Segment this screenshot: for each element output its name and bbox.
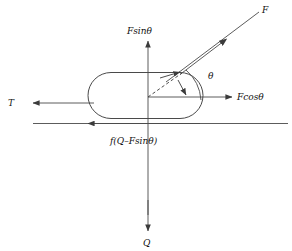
diagram-canvas: F Fsinθ Fcosθ T f(Q–Fsinθ) Q θ: [0, 0, 292, 251]
force-f-arrow: [180, 41, 224, 75]
label-friction: f(Q–Fsinθ): [109, 136, 158, 146]
label-force-f: F: [261, 5, 269, 15]
force-diagram: F Fsinθ Fcosθ T f(Q–Fsinθ) Q θ: [0, 0, 292, 251]
label-angle-theta: θ: [208, 71, 214, 81]
label-load-q: Q: [143, 238, 151, 248]
label-force-fsin-theta: Fsinθ: [126, 26, 153, 36]
capsule-body: [88, 73, 203, 119]
label-force-fcos-theta: Fcosθ: [236, 92, 264, 102]
label-tension-t: T: [8, 98, 15, 108]
angle-arc: [186, 70, 201, 100]
angle-arrow-to-horizontal: [178, 80, 186, 95]
